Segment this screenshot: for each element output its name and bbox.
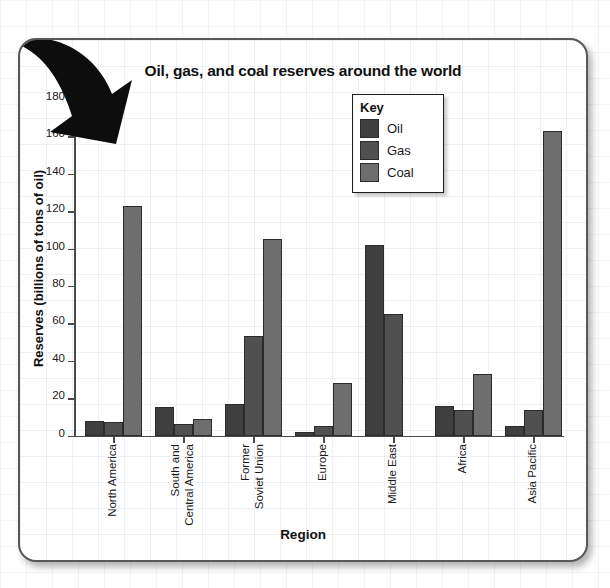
y-axis-tick-label: 20: [52, 389, 65, 401]
legend-title: Key: [360, 100, 436, 115]
x-axis-tick-mark: [393, 437, 395, 443]
bar-gas: [524, 410, 543, 435]
bar-oil: [85, 421, 104, 436]
x-axis-category-label: North America: [106, 444, 122, 562]
bar-group: [225, 99, 282, 436]
x-axis-tick-mark: [463, 437, 465, 443]
x-axis-tick-mark: [323, 437, 325, 443]
bar-oil: [435, 406, 454, 436]
y-axis-tick-label: 180: [46, 90, 65, 102]
bar-oil: [505, 426, 524, 435]
legend-label: Coal: [387, 165, 414, 180]
y-axis-title: Reserves (billions of tons of oil): [29, 99, 49, 437]
legend-swatch-oil: [360, 119, 379, 138]
y-axis-tick-label: 0: [59, 427, 65, 439]
bar-coal: [543, 131, 562, 436]
x-axis-category-label: Africa: [456, 444, 472, 562]
x-axis-tick-mark: [533, 437, 535, 443]
y-axis-title-label: Reserves (billions of tons of oil): [32, 169, 47, 366]
bar-group: [85, 99, 142, 436]
bar-gas: [244, 336, 263, 435]
bar-oil: [225, 404, 244, 436]
y-axis-tick-label: 60: [52, 314, 65, 326]
bar-coal: [123, 206, 142, 436]
bar-coal: [263, 239, 282, 435]
x-axis-category-label: Europe: [316, 444, 332, 562]
bar-group: [155, 99, 212, 436]
y-axis-tick-label: 100: [46, 240, 65, 252]
bar-coal: [333, 383, 352, 435]
y-axis-tick-label: 80: [52, 277, 65, 289]
bar-coal: [193, 419, 212, 436]
legend-rows: OilGasCoal: [360, 119, 436, 182]
bar-oil: [155, 407, 174, 435]
x-axis-tick-mark: [253, 437, 255, 443]
legend-swatch-coal: [360, 163, 379, 182]
x-axis-title: Region: [20, 527, 586, 542]
y-axis-tick-label: 160: [46, 127, 65, 139]
legend-label: Gas: [387, 143, 411, 158]
y-axis-tick-label: 140: [46, 165, 65, 177]
x-axis-category-label: Former Soviet Union: [239, 444, 267, 562]
bar-group: [505, 99, 562, 436]
plot-area: 020406080100120140160180: [74, 99, 564, 437]
bar-oil: [365, 245, 384, 436]
chart-title: Oil, gas, and coal reserves around the w…: [20, 62, 586, 80]
bar-group: [295, 99, 352, 436]
x-axis-category-label: South and Central America: [169, 444, 197, 562]
chart-panel: Oil, gas, and coal reserves around the w…: [18, 38, 588, 562]
legend-swatch-gas: [360, 141, 379, 160]
bar-gas: [314, 426, 333, 435]
bar-coal: [473, 374, 492, 436]
bars-layer: [74, 99, 564, 437]
legend: Key OilGasCoal: [352, 94, 444, 193]
y-axis-tick-label: 120: [46, 202, 65, 214]
legend-item-oil: Oil: [360, 119, 436, 138]
legend-item-coal: Coal: [360, 163, 436, 182]
legend-label: Oil: [387, 121, 403, 136]
y-axis-tick-label: 40: [52, 352, 65, 364]
bar-gas: [454, 410, 473, 435]
x-axis-category-label: Middle East: [386, 444, 402, 562]
bar-gas: [174, 424, 193, 435]
bar-oil: [295, 432, 314, 436]
bar-gas: [384, 314, 403, 436]
legend-item-gas: Gas: [360, 141, 436, 160]
x-axis-category-label: Asia Pacific: [526, 444, 542, 562]
x-axis-tick-mark: [113, 437, 115, 443]
x-axis-tick-mark: [183, 437, 185, 443]
bar-gas: [104, 422, 123, 435]
